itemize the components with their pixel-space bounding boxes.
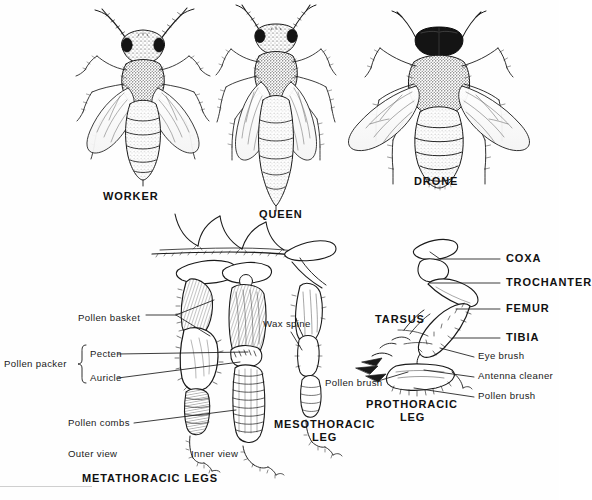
- queen-bee-illustration: [216, 5, 336, 211]
- label-mesothoracic-leg-line2: LEG: [312, 432, 337, 443]
- label-tibia: TIBIA: [506, 332, 539, 343]
- label-eye-brush: Eye brush: [478, 351, 524, 361]
- label-antenna-cleaner: Antenna cleaner: [478, 371, 553, 381]
- caption-worker: WORKER: [103, 191, 159, 202]
- scan-edge-artifact: [0, 486, 92, 487]
- label-pollen-basket: Pollen basket: [78, 313, 140, 323]
- metathoracic-leg-inner-illustration: [222, 262, 284, 478]
- label-inner-view: Inner view: [191, 449, 238, 459]
- caption-drone: DRONE: [414, 176, 458, 187]
- label-mesothoracic-leg-line1: MESOTHORACIC: [274, 419, 375, 430]
- label-pollen-brush-mesothoracic: Pollen brush: [325, 378, 383, 388]
- worker-bee-illustration: [76, 8, 210, 186]
- drone-bee-illustration: [349, 11, 530, 190]
- label-pollen-packer: Pollen packer: [4, 359, 67, 369]
- label-pecten: Pecten: [90, 349, 122, 359]
- label-wax-spine: Wax spine: [263, 319, 311, 329]
- label-outer-view: Outer view: [68, 449, 117, 459]
- label-trochanter: TROCHANTER: [506, 277, 592, 288]
- label-femur: FEMUR: [506, 303, 550, 314]
- label-pollen-brush-prothoracic: Pollen brush: [478, 391, 536, 401]
- label-pollen-combs: Pollen combs: [68, 418, 130, 428]
- label-prothoracic-leg-line1: PROTHORACIC: [366, 399, 458, 410]
- label-prothoracic-leg-line2: LEG: [400, 412, 425, 423]
- abdomen-underside-illustration: [152, 214, 302, 258]
- label-metathoracic-legs: METATHORACIC LEGS: [82, 473, 218, 484]
- label-tarsus: TARSUS: [375, 314, 425, 325]
- label-coxa: COXA: [506, 253, 541, 264]
- label-auricle: Auricle: [90, 373, 122, 383]
- caption-queen: QUEEN: [259, 209, 303, 220]
